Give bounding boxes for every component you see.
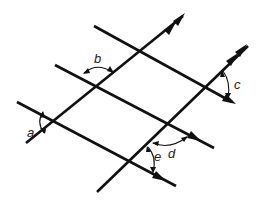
arc-d-tip-right <box>181 136 188 142</box>
ascending-line-left <box>26 16 183 143</box>
arrowhead-down-bottom <box>152 171 166 181</box>
arrowheads-descending <box>152 94 236 181</box>
arc-b-tip-left <box>83 68 90 74</box>
arrowhead-down-middle <box>187 131 201 141</box>
descending-line-top <box>94 26 232 102</box>
arc-d-tip-left <box>152 141 159 146</box>
arc-b-tip-right <box>107 66 114 73</box>
angle-arcs <box>40 66 231 173</box>
angle-label-d: d <box>168 146 176 161</box>
angle-label-c: c <box>234 77 241 92</box>
parallel-lines-diagram: a b c d e <box>0 0 269 206</box>
angle-label-b: b <box>94 51 101 66</box>
arrowheads-ascending <box>164 13 247 66</box>
angle-label-a: a <box>27 125 34 140</box>
descending-lines <box>17 26 232 186</box>
angle-label-e: e <box>154 149 161 164</box>
